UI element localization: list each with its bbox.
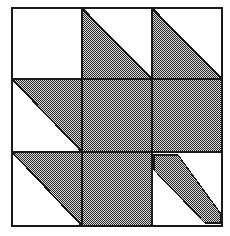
quilt-block-figure xyxy=(0,0,230,236)
quilt-block-canvas xyxy=(0,0,230,236)
shape-center-square xyxy=(82,79,152,152)
shape-middle-right-square xyxy=(152,79,222,152)
shape-bottom-center-square xyxy=(82,152,152,226)
